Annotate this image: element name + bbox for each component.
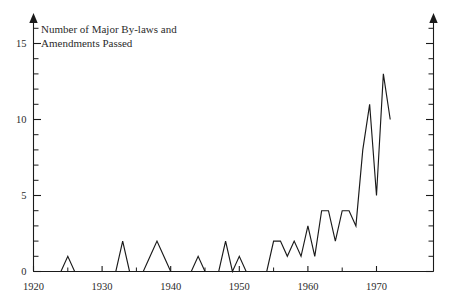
axis-title-line-1: Number of Major By-laws and: [41, 23, 177, 35]
y-tick-label-5: 5: [21, 190, 26, 201]
y-axis-left-arrow: [29, 13, 37, 23]
line-chart: 051015192019301940195019601970 Number of…: [0, 0, 451, 300]
x-tick-label-1950: 1950: [229, 281, 250, 292]
y-tick-label-0: 0: [21, 266, 26, 277]
axis-title-line-2: Amendments Passed: [41, 37, 133, 49]
x-tick-label-1940: 1940: [160, 281, 181, 292]
x-tick-label-1930: 1930: [92, 281, 113, 292]
data-series-line: [34, 74, 391, 272]
y-tick-label-10: 10: [16, 114, 27, 125]
y-tick-label-15: 15: [16, 38, 27, 49]
tick-labels-layer: 051015192019301940195019601970: [16, 38, 387, 291]
series-layer: [34, 74, 391, 272]
axes-layer: [29, 13, 437, 272]
chart-page: 051015192019301940195019601970 Number of…: [0, 0, 451, 300]
y-axis-right-arrow: [429, 13, 437, 23]
x-tick-label-1970: 1970: [366, 281, 387, 292]
x-tick-label-1920: 1920: [23, 281, 44, 292]
x-tick-label-1960: 1960: [297, 281, 318, 292]
